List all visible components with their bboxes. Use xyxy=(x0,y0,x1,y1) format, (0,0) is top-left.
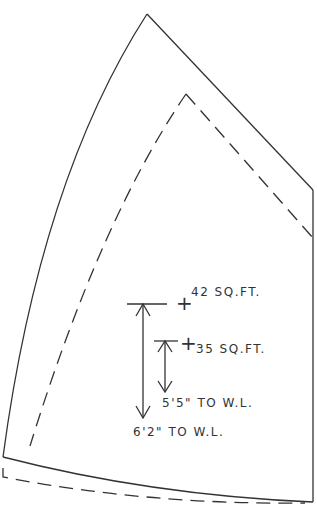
small-height-dimension xyxy=(154,341,178,392)
small-sail-center-of-effort-mark: + xyxy=(180,333,197,353)
large-sail-area-label: 42 SQ.FT. xyxy=(191,285,261,299)
small-sail-outline xyxy=(3,94,313,503)
small-height-label: 5'5" TO W.L. xyxy=(162,396,253,410)
small-sail-area-label: 35 SQ.FT. xyxy=(196,342,266,356)
large-height-label: 6'2" TO W.L. xyxy=(133,425,224,439)
large-height-dimension xyxy=(127,304,167,418)
